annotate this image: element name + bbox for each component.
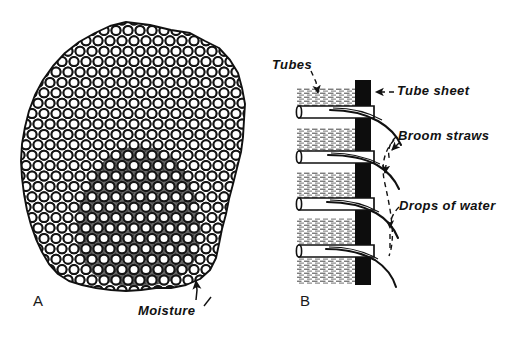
broom-straws-label: Broom straws xyxy=(398,128,490,143)
moisture-label: Moisture xyxy=(138,303,195,318)
drops-of-water-label: Drops of water xyxy=(399,198,496,213)
tubes-label: Tubes xyxy=(272,57,312,72)
panel-letter-a: A xyxy=(33,292,43,309)
panel-letter-b: B xyxy=(300,292,310,309)
tube-sheet-label: Tube sheet xyxy=(397,83,469,98)
figure-canvas xyxy=(0,0,518,343)
